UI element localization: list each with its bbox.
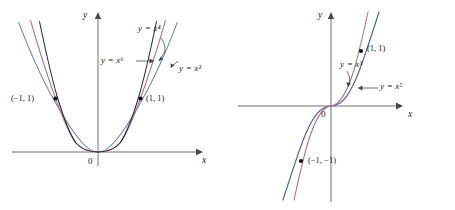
leader-y-equals-x5 [358, 86, 379, 91]
chart-odd-powers: y x 0 y = x³ y = x⁵ (1, 1) (−1, −1) [228, 0, 455, 210]
label-y-equals-x3: y = x³ [340, 60, 362, 69]
x-axis-label: x [408, 110, 412, 120]
label-y-equals-x5: y = x⁵ [380, 82, 403, 91]
leader-y-equals-x6 [136, 59, 155, 64]
label-y-equals-x5-text: y = x⁵ [380, 81, 403, 91]
point-label-1-1: (1, 1) [146, 94, 164, 103]
label-y-equals-x2-text: y = x² [179, 63, 201, 73]
power-functions-figure: y x 0 y = x⁴ y = x⁶ y = x² (−1, 1) (1, 1… [0, 0, 455, 210]
marker-neg1-neg1 [299, 159, 303, 163]
origin-label: 0 [321, 110, 326, 119]
y-axis-label: y [318, 11, 322, 21]
odd-powers-plot [228, 0, 455, 210]
label-y-equals-x6-text: y = x⁶ [101, 55, 124, 65]
marker-neg1-1 [53, 96, 57, 100]
chart-even-powers: y x 0 y = x⁴ y = x⁶ y = x² (−1, 1) (1, 1… [0, 0, 228, 210]
label-y-equals-x2: y = x² [179, 64, 201, 73]
y-axis-label: y [83, 11, 87, 21]
point-label-neg1-neg1: (−1, −1) [308, 156, 336, 165]
label-y-equals-x3-text: y = x³ [340, 59, 362, 69]
origin-label: 0 [88, 157, 93, 166]
leader-y-equals-x2 [171, 61, 179, 68]
even-powers-plot [0, 0, 228, 210]
label-y-equals-x6: y = x⁶ [101, 56, 124, 65]
x-axis [12, 149, 203, 156]
label-y-equals-x4-text: y = x⁴ [138, 23, 161, 33]
marker-1-1 [138, 96, 142, 100]
x-axis-label: x [202, 156, 206, 166]
label-y-equals-x4: y = x⁴ [138, 24, 161, 33]
marker-1-1 [359, 49, 363, 53]
point-label-neg1-1: (−1, 1) [11, 94, 34, 103]
point-label-1-1: (1, 1) [367, 44, 385, 53]
leader-y-equals-x3 [346, 71, 351, 87]
y-axis [95, 12, 101, 166]
